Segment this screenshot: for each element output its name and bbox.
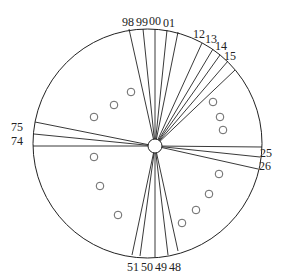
small-circle-marker: [110, 101, 118, 109]
sector-label: 98: [122, 15, 134, 29]
ray-line: [155, 146, 168, 255]
sector-label: 51: [127, 260, 139, 274]
sector-label: 12: [193, 27, 205, 41]
small-circle-marker: [219, 126, 227, 134]
sector-label: 01: [163, 16, 175, 30]
ray-line: [155, 146, 260, 157]
small-circle-marker: [205, 190, 213, 198]
small-circle-marker: [96, 182, 104, 190]
sector-label: 25: [260, 146, 272, 160]
sector-label: 26: [259, 159, 271, 173]
ray-line: [155, 146, 258, 169]
sector-label: 15: [224, 49, 236, 63]
sector-label: 00: [149, 14, 161, 28]
ray-line: [129, 29, 155, 146]
ray-line: [155, 146, 178, 251]
small-circle-marker: [114, 211, 122, 219]
sector-label: 75: [11, 120, 23, 134]
small-circle-marker: [216, 113, 224, 121]
ray-line: [143, 29, 155, 146]
sector-label: 74: [11, 134, 23, 148]
sector-label: 50: [141, 260, 153, 274]
ray-line: [155, 70, 235, 146]
small-circle-marker: [90, 153, 98, 161]
ray-line: [155, 61, 228, 146]
small-circle-marker: [178, 219, 186, 227]
sector-label: 49: [155, 260, 167, 274]
ray-line: [34, 134, 155, 146]
small-circle-marker: [127, 88, 135, 96]
small-circle-marker: [90, 113, 98, 121]
ray-line: [155, 32, 178, 146]
sector-label: 99: [136, 15, 148, 29]
radial-diagram: 98990001121314152526757451504948: [0, 0, 292, 279]
ray-line: [132, 146, 155, 255]
ray-line: [155, 43, 202, 146]
small-circle-marker: [209, 98, 217, 106]
small-circle-marker: [192, 206, 200, 214]
outer-circle: [33, 29, 262, 258]
ray-lines: [33, 29, 262, 257]
ray-line: [140, 146, 155, 256]
center-hub-circle: [148, 139, 162, 153]
sector-label: 48: [169, 260, 181, 274]
ray-line: [155, 146, 262, 147]
sector-labels: 98990001121314152526757451504948: [11, 14, 272, 274]
small-circle-marker: [215, 170, 223, 178]
ray-line: [155, 55, 220, 146]
ray-line: [35, 122, 155, 146]
